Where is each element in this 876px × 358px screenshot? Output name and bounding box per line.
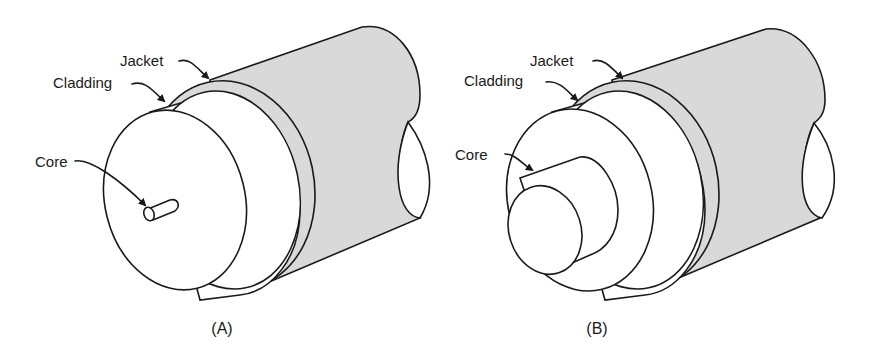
cladding-leader-b	[546, 82, 577, 100]
caption-a: (A)	[211, 320, 232, 337]
core-label-a: Core	[35, 153, 68, 170]
jacket-end-a	[398, 122, 429, 218]
cladding-leader-a	[132, 83, 164, 101]
jacket-label-a: Jacket	[120, 52, 164, 69]
jacket-leader-b	[593, 60, 622, 78]
panel-b: Jacket Cladding Core (B)	[455, 29, 834, 337]
jacket-label-b: Jacket	[530, 52, 574, 69]
fiber-diagram: Jacket Cladding Core (A) Jacket Cladding…	[0, 0, 876, 358]
cladding-label-b: Cladding	[464, 72, 523, 89]
panel-a: Jacket Cladding Core (A)	[35, 26, 430, 337]
caption-b: (B)	[586, 320, 607, 337]
jacket-leader-a	[179, 60, 208, 78]
core-label-b: Core	[455, 146, 488, 163]
cladding-label-a: Cladding	[53, 74, 112, 91]
